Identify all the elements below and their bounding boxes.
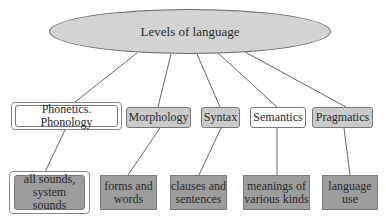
leaf-line1: language [328,180,371,193]
node-label: Pragmatics [316,111,369,124]
leaf-line1: clauses and [171,180,226,193]
node-phonetics-phonology: Phonetics. Phonology [15,105,118,127]
root-label: Levels of language [141,24,240,40]
node-label: Semantics [253,111,302,124]
leaf-clauses-and-sentences: clauses and sentences [170,175,227,210]
node-semantics: Semantics [250,107,306,128]
leaf-line1: meanings of [244,180,308,193]
node-morphology: Morphology [126,107,191,128]
node-label: Syntax [204,111,237,124]
node-pragmatics: Pragmatics [312,107,373,128]
node-label: Phonetics. Phonology [16,103,117,129]
leaf-meanings: meanings of various kinds [243,175,310,210]
leaf-language-use: language use [322,175,378,210]
leaf-line2: various kinds [244,193,308,206]
root-node-levels-of-language: Levels of language [49,9,331,54]
node-label: Morphology [129,111,189,124]
leaf-forms-and-words: forms and words [100,175,157,210]
node-syntax: Syntax [201,107,240,128]
leaf-line1: forms and [104,180,152,193]
leaf-line2: system sounds [15,186,84,212]
leaf-line2: sentences [171,193,226,206]
leaf-line2: words [104,193,152,206]
leaf-all-sounds: all sounds, system sounds [14,175,85,210]
leaf-line2: use [328,193,371,206]
